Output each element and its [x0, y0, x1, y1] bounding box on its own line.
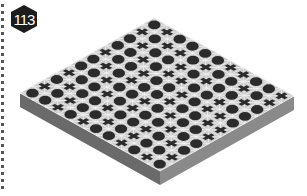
circle-piece-icon: [152, 132, 164, 141]
circle-piece-icon: [51, 89, 63, 98]
circle-piece-icon: [51, 75, 63, 84]
circle-piece-icon: [127, 118, 139, 127]
circle-piece-icon: [239, 112, 251, 121]
circle-piece-icon: [112, 41, 124, 50]
circle-piece-icon: [250, 91, 262, 100]
circle-piece-icon: [139, 111, 151, 120]
circle-piece-icon: [88, 82, 100, 91]
circle-piece-icon: [151, 104, 163, 113]
circle-piece-icon: [115, 124, 127, 133]
circle-piece-icon: [128, 145, 140, 154]
circle-piece-icon: [212, 56, 224, 65]
circle-piece-icon: [226, 105, 238, 114]
circle-piece-icon: [124, 48, 136, 57]
circle-piece-icon: [189, 111, 201, 120]
circle-piece-icon: [187, 56, 199, 65]
circle-piece-icon: [213, 84, 225, 93]
circle-piece-icon: [126, 90, 138, 99]
circle-piece-icon: [138, 83, 150, 92]
isometric-puzzle-board: [0, 0, 307, 196]
circle-piece-icon: [188, 84, 200, 93]
circle-piece-icon: [39, 96, 51, 105]
circle-piece-icon: [148, 21, 160, 30]
circle-piece-icon: [227, 119, 239, 128]
circle-piece-icon: [103, 131, 115, 140]
circle-piece-icon: [177, 118, 189, 127]
circle-piece-icon: [77, 103, 89, 112]
circle-piece-icon: [174, 35, 186, 44]
circle-piece-icon: [76, 75, 88, 84]
circle-piece-icon: [149, 34, 161, 43]
circle-piece-icon: [176, 104, 188, 113]
circle-piece-icon: [88, 69, 100, 78]
circle-piece-icon: [186, 42, 198, 51]
circle-piece-icon: [263, 84, 275, 93]
circle-piece-icon: [163, 83, 175, 92]
circle-piece-icon: [151, 90, 163, 99]
circle-piece-icon: [177, 132, 189, 141]
circle-piece-icon: [201, 91, 213, 100]
circle-piece-icon: [250, 77, 262, 86]
circle-piece-icon: [225, 77, 237, 86]
circle-piece-icon: [113, 83, 125, 92]
circle-piece-icon: [190, 139, 202, 148]
circle-piece-icon: [124, 34, 136, 43]
circle-piece-icon: [89, 110, 101, 119]
circle-piece-icon: [149, 48, 161, 57]
circle-piece-icon: [153, 146, 165, 155]
circle-piece-icon: [251, 105, 263, 114]
circle-piece-icon: [187, 70, 199, 79]
circle-piece-icon: [75, 61, 87, 70]
circle-piece-icon: [125, 62, 137, 71]
circle-piece-icon: [178, 146, 190, 155]
circle-piece-icon: [212, 70, 224, 79]
circle-piece-icon: [114, 97, 126, 106]
circle-piece-icon: [90, 124, 102, 133]
circle-piece-icon: [199, 49, 211, 58]
circle-piece-icon: [26, 89, 38, 98]
circle-piece-icon: [188, 97, 200, 106]
circle-piece-icon: [150, 62, 162, 71]
circle-piece-icon: [114, 111, 126, 120]
circle-piece-icon: [162, 55, 174, 64]
circle-piece-icon: [87, 55, 99, 64]
circle-piece-icon: [64, 110, 76, 119]
circle-piece-icon: [226, 91, 238, 100]
circle-piece-icon: [89, 96, 101, 105]
circle-piece-icon: [140, 139, 152, 148]
circle-piece-icon: [76, 89, 88, 98]
circle-piece-icon: [154, 160, 166, 169]
circle-piece-icon: [113, 69, 125, 78]
circle-piece-icon: [190, 125, 202, 134]
circle-piece-icon: [152, 118, 164, 127]
circle-piece-icon: [112, 55, 124, 64]
circle-piece-icon: [150, 76, 162, 85]
